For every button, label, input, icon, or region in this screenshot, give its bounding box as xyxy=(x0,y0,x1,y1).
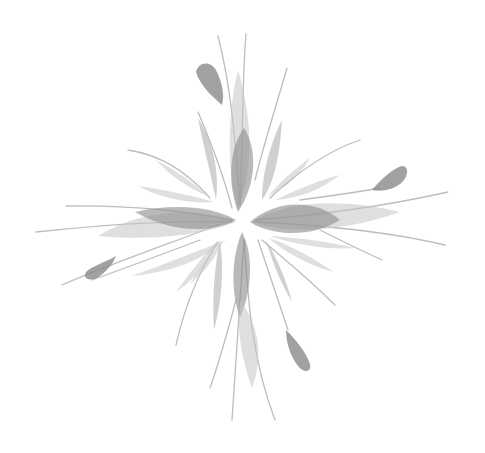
center-gap xyxy=(238,217,248,227)
bottom-right-whisker xyxy=(262,240,335,305)
bottom-arm xyxy=(176,232,355,420)
top-arm xyxy=(128,34,360,212)
bottom-leaf-light xyxy=(239,300,259,388)
top-left-long-leaf xyxy=(138,186,214,202)
top-drop-icon xyxy=(196,63,223,105)
left-drop-icon xyxy=(85,256,116,279)
bottom-drop-icon xyxy=(286,330,310,371)
floral-starburst-illustration xyxy=(0,0,485,453)
right-drop-icon xyxy=(372,166,407,191)
left-arm xyxy=(36,206,236,285)
